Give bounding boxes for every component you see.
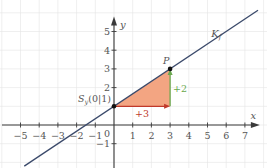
x-tick-label: 1 xyxy=(130,130,136,141)
x-axis-arrowhead xyxy=(251,122,260,128)
line-label: Kf xyxy=(210,28,222,41)
run-label: +3 xyxy=(135,108,149,119)
y-tick-label: 2 xyxy=(104,82,110,93)
function-line xyxy=(24,10,258,166)
grid xyxy=(0,0,267,168)
x-tick-label: 3 xyxy=(167,130,173,141)
x-tick-label: 5 xyxy=(204,130,210,141)
x-tick-label: 6 xyxy=(223,130,229,141)
y-tick-label: 3 xyxy=(104,63,110,74)
coordinate-plot: −5−4−3−2−11234567−12345 Sy(0|1)P x y 0 K… xyxy=(0,0,267,168)
x-tick-label: −3 xyxy=(51,130,65,141)
y-tick-label: 4 xyxy=(104,45,110,56)
origin-label: 0 xyxy=(104,128,110,139)
y-tick-label: 5 xyxy=(104,26,110,37)
x-axis-label: x xyxy=(251,110,257,121)
point-label-sy-coords: (0|1) xyxy=(88,93,111,105)
point-marker xyxy=(112,104,117,109)
x-tick-label: 2 xyxy=(148,130,154,141)
y-axis-arrowhead xyxy=(111,17,117,26)
x-tick-label: −5 xyxy=(13,130,27,141)
point-label-p: P xyxy=(162,55,170,66)
y-tick-label: −1 xyxy=(96,138,110,149)
x-tick-label: 4 xyxy=(186,130,192,141)
rise-label: +2 xyxy=(173,83,187,94)
point-marker xyxy=(168,67,173,72)
point-label-sy: Sy(0|1) xyxy=(78,93,111,106)
x-tick-label: 7 xyxy=(242,130,248,141)
y-axis-label: y xyxy=(119,19,126,30)
x-tick-label: −4 xyxy=(32,130,46,141)
